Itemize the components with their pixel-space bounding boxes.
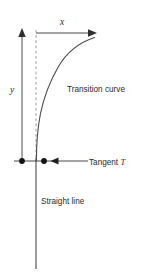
transition-curve-label: Transition curve xyxy=(67,85,125,94)
x-axis-label: x xyxy=(59,17,65,27)
y-axis xyxy=(18,28,25,161)
tangent-symbol: T xyxy=(120,157,126,167)
transition-curve-path xyxy=(36,38,94,161)
straight-line-label: Straight line xyxy=(41,197,85,206)
tangent-label: Tangent T xyxy=(89,157,126,167)
tangent-arrowhead-icon xyxy=(51,158,59,165)
x-axis xyxy=(36,29,97,36)
y-axis-label: y xyxy=(9,85,15,95)
y-axis-arrowhead-icon xyxy=(18,28,25,37)
tangent-point-dot xyxy=(41,158,47,164)
tangent-label-text: Tangent xyxy=(89,158,120,167)
tangent-leader xyxy=(14,158,88,165)
x-axis-arrowhead-icon xyxy=(88,29,97,36)
transition-curve-diagram: x y Transition curve Tangent T Straight … xyxy=(0,0,148,274)
origin-dot xyxy=(19,158,25,164)
